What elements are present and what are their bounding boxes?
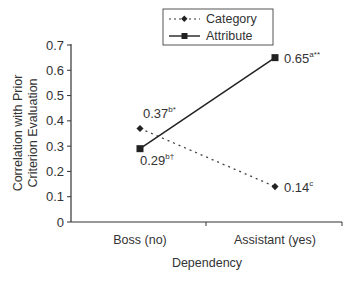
diamond-marker-icon [136, 125, 143, 132]
diamond-marker-icon [271, 183, 278, 190]
data-label: 0.37b* [143, 105, 176, 121]
series-group: 0.37b*0.14c0.29b†0.65a** [136, 50, 320, 195]
y-tick-label: 0.6 [46, 63, 64, 78]
svg-text:Correlation with Prior: Correlation with Prior [11, 75, 25, 192]
x-axis: Boss (no) Assistant (yes) Dependency [71, 222, 342, 270]
attribute-line [140, 58, 275, 149]
x-category-assistant: Assistant (yes) [234, 233, 316, 247]
data-label: 0.14c [284, 179, 313, 195]
legend-attribute: Attribute [206, 29, 253, 43]
y-tick-label: 0.5 [46, 88, 64, 103]
y-tick-label: 0.2 [46, 164, 64, 179]
svg-text:Criterion Evaluation: Criterion Evaluation [26, 78, 40, 187]
legend-category: Category [206, 12, 257, 26]
y-axis-label: Correlation with Prior Criterion Evaluat… [11, 75, 40, 192]
data-label: 0.29b† [140, 152, 174, 168]
y-axis: 00.10.20.30.40.50.60.7 [46, 38, 71, 230]
line-chart: Category Attribute 00.10.20.30.40.50.60.… [0, 0, 350, 281]
data-label: 0.65a** [284, 50, 320, 66]
x-category-boss: Boss (no) [113, 233, 167, 247]
square-marker-icon [272, 54, 279, 61]
y-tick-label: 0.4 [46, 113, 64, 128]
y-tick-label: 0.1 [46, 189, 64, 204]
y-tick-label: 0 [57, 215, 64, 230]
square-marker-icon [137, 145, 144, 152]
x-axis-label: Dependency [172, 256, 243, 270]
square-marker-icon [182, 33, 188, 39]
legend: Category Attribute [163, 9, 273, 45]
y-tick-label: 0.3 [46, 139, 64, 154]
y-tick-label: 0.7 [46, 38, 64, 53]
